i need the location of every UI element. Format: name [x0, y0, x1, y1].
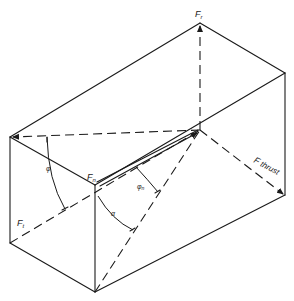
- f-n-vector: [97, 130, 198, 186]
- alpha-arc: [98, 196, 133, 230]
- box-dashed-edges: [10, 26, 283, 292]
- force-diagram: Fr Fn Ft F thrust φ φn α: [0, 0, 294, 301]
- f-thrust-vector: [200, 130, 283, 194]
- top-back-vector: [13, 130, 200, 137]
- label-alpha: α: [111, 210, 116, 217]
- label-f-n: Fn: [87, 172, 97, 183]
- label-phi-n: φn: [137, 183, 145, 191]
- label-f-r: Fr: [195, 9, 204, 20]
- label-f-t: Ft: [17, 218, 25, 229]
- labels: Fr Fn Ft F thrust φ φn α: [17, 9, 282, 229]
- phi-arc: [47, 137, 65, 209]
- label-phi: φ: [46, 165, 51, 173]
- box-solid-edges: [10, 23, 285, 292]
